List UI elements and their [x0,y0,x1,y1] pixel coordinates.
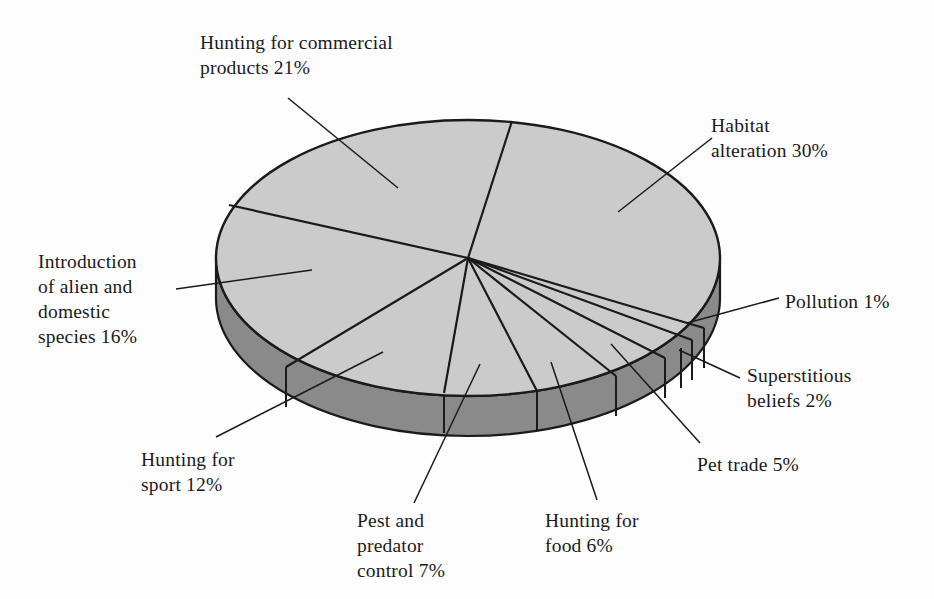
slice-label-superstitious-beliefs: Superstitious beliefs 2% [747,363,851,413]
slice-label-pet-trade: Pet trade 5% [697,452,799,477]
slice-label-hunting-sport: Hunting for sport 12% [141,447,235,497]
chart-page: Habitat alteration 30% Hunting for comme… [0,0,934,599]
slice-label-introduction-alien: Introduction of alien and domestic speci… [38,249,137,349]
slice-label-pest-predator-control: Pest and predator control 7% [357,508,445,583]
slice-label-hunting-commercial: Hunting for commercial products 21% [200,30,393,80]
slice-label-hunting-food: Hunting for food 6% [545,508,639,558]
slice-label-pollution: Pollution 1% [785,289,890,314]
slice-label-habitat-alteration: Habitat alteration 30% [711,113,828,163]
